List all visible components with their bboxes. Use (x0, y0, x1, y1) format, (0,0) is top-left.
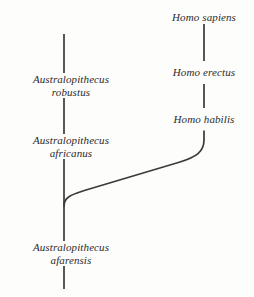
taxon-label-australopithecus-africanus: Australopithecus africanus (31, 134, 111, 159)
taxon-label-homo-habilis: Homohabilis (172, 113, 237, 126)
taxon-species: sapiens (202, 11, 236, 23)
taxon-species: habilis (204, 113, 235, 125)
taxon-genus: Australopithecus (33, 134, 109, 147)
taxon-species: robustus (33, 86, 109, 99)
taxon-label-homo-erectus: Homoerectus (171, 66, 237, 79)
taxon-genus: Homo (172, 11, 199, 23)
taxon-species: africanus (33, 147, 109, 160)
taxon-species: afarensis (33, 254, 109, 267)
phylogenetic-tree-diagram: Homosapiens Homoerectus Homohabilis Aust… (0, 0, 254, 297)
taxon-species: erectus (203, 66, 235, 78)
taxon-label-australopithecus-afarensis: Australopithecus afarensis (31, 241, 111, 266)
taxon-label-australopithecus-robustus: Australopithecus robustus (31, 73, 111, 98)
taxon-genus: Homo (174, 113, 201, 125)
taxon-genus: Australopithecus (33, 241, 109, 254)
taxon-genus: Australopithecus (33, 73, 109, 86)
taxon-label-homo-sapiens: Homosapiens (170, 11, 238, 24)
taxon-genus: Homo (173, 66, 200, 78)
